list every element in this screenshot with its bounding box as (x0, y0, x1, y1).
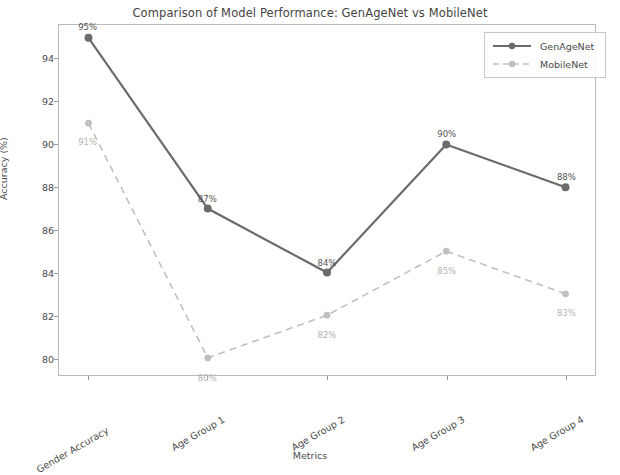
x-tick-mark (566, 376, 567, 380)
chart-title: Comparison of Model Performance: GenAgeN… (0, 6, 620, 20)
data-point (323, 269, 331, 277)
series-line-mobilenet (88, 123, 565, 358)
y-tick-label: 84 (30, 267, 54, 278)
data-point (562, 290, 569, 297)
x-tick-label: Age Group 4 (529, 414, 586, 453)
x-tick-label: Age Group 3 (409, 414, 466, 453)
y-tick-label: 94 (30, 53, 54, 64)
data-point (204, 205, 212, 213)
legend-swatch-dashed-line-icon (491, 57, 533, 71)
legend-label-genagenet: GenAgeNet (540, 41, 594, 52)
y-tick-label: 86 (30, 225, 54, 236)
data-point (204, 355, 211, 362)
point-label: 88% (557, 172, 576, 182)
y-tick-label: 82 (30, 310, 54, 321)
x-tick-mark (327, 376, 328, 380)
legend-item-mobilenet[interactable]: MobileNet (491, 55, 599, 73)
data-point (85, 120, 92, 127)
point-label: 84% (318, 258, 337, 268)
data-point (85, 34, 93, 42)
legend-item-genagenet[interactable]: GenAgeNet (491, 37, 599, 55)
y-tick-label: 92 (30, 96, 54, 107)
point-label: 83% (557, 308, 576, 318)
point-label: 82% (318, 330, 337, 340)
point-label: 87% (198, 194, 217, 204)
y-tick-label: 90 (30, 139, 54, 150)
x-tick-mark (447, 376, 448, 380)
point-label: 91% (78, 137, 97, 147)
data-point (562, 183, 570, 191)
point-label: 90% (437, 129, 456, 139)
legend-label-mobilenet: MobileNet (540, 59, 588, 70)
data-point (324, 312, 331, 319)
y-tick-label: 88 (30, 182, 54, 193)
point-label: 85% (437, 266, 456, 276)
legend-swatch-solid-line-icon (491, 39, 533, 53)
chart-legend: GenAgeNet MobileNet (484, 32, 606, 78)
data-point (442, 141, 450, 149)
y-axis-label: Accuracy (%) (0, 137, 9, 200)
y-axis-tick-labels: 8082848688909294 (28, 24, 54, 376)
point-label: 95% (78, 22, 97, 32)
point-label: 80% (198, 373, 217, 383)
x-tick-label: Age Group 1 (170, 414, 227, 453)
x-tick-mark (88, 376, 89, 380)
y-tick-label: 80 (30, 353, 54, 364)
x-axis-label: Metrics (0, 450, 620, 461)
x-tick-label: Age Group 2 (290, 414, 347, 453)
data-point (443, 248, 450, 255)
